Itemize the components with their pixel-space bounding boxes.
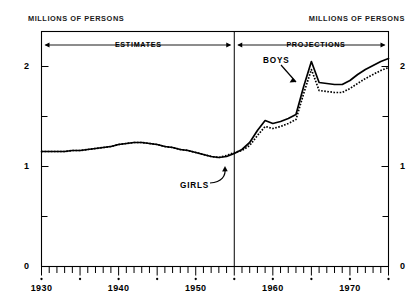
y-tick-label-right-1: 1 xyxy=(396,161,410,171)
girls-pointer-head xyxy=(222,166,228,172)
series-line-girls xyxy=(42,68,389,158)
y-tick-label-right-0: 0 xyxy=(396,261,410,271)
y-tick-label-0: 0 xyxy=(20,261,34,271)
y-tick-label-right-2: 2 xyxy=(396,61,410,71)
x-tick-label-1970: 1970 xyxy=(333,283,367,293)
chart-container: MILLIONS OF PERSONS MILLIONS OF PERSONS … xyxy=(0,0,416,301)
x-tick-label-1960: 1960 xyxy=(256,283,290,293)
chart-plot-area xyxy=(0,0,416,301)
x-tick-label-1930: 1930 xyxy=(25,283,59,293)
x-tick-label-1940: 1940 xyxy=(102,283,136,293)
series-line-boys xyxy=(42,59,389,158)
y-tick-label-2: 2 xyxy=(20,61,34,71)
y-tick-label-1: 1 xyxy=(20,161,34,171)
x-tick-label-1950: 1950 xyxy=(179,283,213,293)
